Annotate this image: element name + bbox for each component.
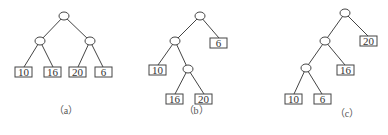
tree-edge — [325, 13, 345, 41]
leaf-node: 6 — [314, 93, 331, 105]
leaf-weight: 16 — [169, 93, 181, 105]
tree-edge — [40, 16, 64, 41]
leaf-weight: 16 — [340, 64, 352, 76]
internal-node — [170, 37, 180, 45]
leaf-weight: 6 — [216, 37, 222, 49]
figure-caption: （b） — [184, 105, 209, 116]
leaf-node: 16 — [337, 64, 354, 76]
huffman-tree-figure: 1016206（a） 6101620（b） 2016106（c） — [0, 0, 388, 135]
leaf-weight: 20 — [198, 93, 210, 105]
tree-b: 6101620（b） — [149, 12, 227, 116]
tree-edge — [64, 16, 90, 41]
leaf-node: 10 — [285, 93, 302, 105]
leaf-weight: 6 — [101, 66, 107, 78]
leaf-node: 20 — [195, 93, 212, 105]
internal-node — [35, 37, 45, 45]
leaf-node: 10 — [15, 66, 32, 78]
leaf-weight: 20 — [363, 35, 375, 47]
leaf-node: 20 — [360, 35, 377, 47]
leaf-node: 6 — [95, 66, 112, 78]
leaf-node: 10 — [149, 64, 166, 76]
leaf-weight: 20 — [72, 66, 84, 78]
internal-node — [183, 65, 193, 73]
figure-caption: （a） — [54, 105, 78, 116]
leaf-node: 20 — [69, 66, 86, 78]
leaf-weight: 6 — [320, 93, 326, 105]
leaf-weight: 16 — [47, 66, 59, 78]
root-node — [340, 9, 350, 17]
root-node — [195, 12, 205, 20]
leaf-node: 6 — [210, 37, 227, 49]
internal-node — [301, 64, 311, 72]
leaf-node: 16 — [166, 93, 183, 105]
tree-edge — [306, 41, 325, 68]
leaf-weight: 10 — [288, 93, 300, 105]
figure-caption: （c） — [335, 108, 359, 119]
tree-c: 2016106（c） — [285, 9, 377, 119]
leaf-weight: 10 — [152, 64, 164, 76]
root-node — [59, 12, 69, 20]
leaf-weight: 10 — [18, 66, 30, 78]
internal-node — [85, 37, 95, 45]
tree-a: 1016206（a） — [15, 12, 112, 116]
internal-node — [320, 37, 330, 45]
tree-edge — [175, 16, 200, 41]
tree-diagrams-svg: 1016206（a） 6101620（b） 2016106（c） — [0, 0, 388, 135]
leaf-node: 16 — [44, 66, 61, 78]
